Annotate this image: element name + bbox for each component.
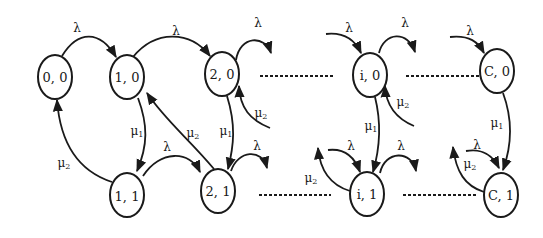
label-lambda: λ — [347, 139, 355, 153]
label-mu2: μ2 — [58, 156, 71, 171]
label-mu2: μ2 — [397, 95, 410, 110]
label-lambda: λ — [163, 140, 171, 154]
mu-symbol: μ — [305, 171, 313, 185]
label-mu1: μ1 — [491, 116, 504, 131]
state-node-2-0: 2, 0 — [205, 52, 239, 96]
edge-10-20-lambda — [133, 37, 210, 57]
edge-i0-out-lambda — [379, 36, 415, 53]
mu-symbol: μ — [255, 106, 263, 120]
mu-subscript: 1 — [372, 125, 377, 134]
edge-i1-out-mu2 — [318, 148, 350, 191]
label-mu1: μ1 — [365, 119, 378, 134]
state-node-1-1: 1, 1 — [110, 173, 144, 217]
label-lambda: λ — [466, 24, 474, 38]
edge-11-21-lambda — [143, 156, 200, 176]
mu-symbol: μ — [220, 124, 228, 138]
label-mu2: μ2 — [464, 157, 477, 172]
mu-subscript: 2 — [312, 177, 317, 186]
state-diagram: λ λ λ μ1 μ2 λ μ2 μ1 μ2 λ λ λ μ2 μ1 λ λ μ… — [0, 0, 543, 238]
edge-21-10-mu2 — [147, 93, 214, 169]
label-mu1: μ1 — [220, 124, 233, 139]
state-node-C-1: C, 1 — [484, 173, 518, 217]
mu-symbol: μ — [365, 119, 373, 133]
state-label: 2, 1 — [206, 184, 231, 199]
edge-in-i0-lambda — [326, 34, 361, 53]
state-label: 1, 0 — [115, 70, 140, 85]
label-mu2: μ2 — [305, 171, 318, 186]
state-node-i-0: i, 0 — [353, 53, 387, 97]
state-node-C-0: C, 0 — [480, 49, 514, 93]
state-label: 1, 1 — [115, 189, 140, 204]
label-lambda: λ — [397, 139, 405, 153]
state-label: 2, 0 — [210, 67, 235, 82]
edge-i0-i1-mu1 — [373, 97, 379, 172]
label-lambda: λ — [254, 16, 262, 30]
label-mu2: μ2 — [187, 126, 200, 141]
state-node-2-1: 2, 1 — [201, 169, 235, 213]
label-lambda: λ — [345, 21, 353, 35]
mu-symbol: μ — [131, 124, 139, 138]
state-label: 0, 0 — [43, 70, 68, 85]
label-mu1: μ1 — [131, 124, 144, 139]
state-label: C, 0 — [484, 64, 510, 79]
label-lambda: λ — [172, 24, 180, 38]
state-node-1-0: 1, 0 — [110, 55, 144, 99]
mu-subscript: 2 — [404, 101, 409, 110]
edge-C0-C1-mu1 — [503, 93, 510, 170]
state-label: C, 1 — [488, 188, 514, 203]
label-lambda: λ — [473, 138, 481, 152]
mu-symbol: μ — [491, 116, 499, 130]
edge-in-i1-lambda — [328, 150, 360, 172]
label-mu2: μ2 — [255, 106, 268, 121]
mu-subscript: 2 — [262, 112, 267, 121]
mu-subscript: 1 — [138, 130, 143, 139]
label-lambda: λ — [73, 21, 81, 35]
edge-i1-out-lambda — [380, 155, 416, 173]
mu-subscript: 1 — [227, 130, 232, 139]
edge-00-10-lambda — [62, 37, 116, 57]
state-label: i, 0 — [360, 68, 381, 83]
mu-symbol: μ — [187, 126, 195, 140]
mu-symbol: μ — [58, 156, 66, 170]
mu-subscript: 1 — [498, 122, 503, 131]
edge-in-C0-lambda — [450, 37, 484, 53]
mu-symbol: μ — [397, 95, 405, 109]
label-lambda: λ — [401, 16, 409, 30]
edge-21-out-lambda — [231, 154, 267, 171]
state-node-i-1: i, 1 — [350, 172, 384, 216]
mu-subscript: 2 — [65, 162, 70, 171]
mu-subscript: 2 — [194, 132, 199, 141]
edge-20-out-lambda — [236, 40, 271, 60]
state-label: i, 1 — [357, 187, 378, 202]
mu-symbol: μ — [464, 157, 472, 171]
mu-subscript: 2 — [471, 163, 476, 172]
state-node-0-0: 0, 0 — [38, 55, 72, 99]
label-lambda: λ — [253, 139, 261, 153]
